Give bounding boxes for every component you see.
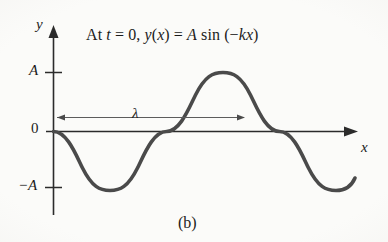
y-axis <box>49 25 59 215</box>
x-axis <box>46 127 358 137</box>
equation-sin-open: sin ( <box>197 26 230 43</box>
x-axis-arrowhead <box>344 127 358 137</box>
equation-paren-close-eq: ) = <box>164 26 187 43</box>
y-axis-label: y <box>36 17 43 32</box>
figure-container: y x A 0 −A λ At t = 0, y(x) = A sin (−kx… <box>0 0 388 242</box>
x-axis-label: x <box>361 140 368 155</box>
figure-caption: (b) <box>178 215 197 231</box>
wavelength-arrowhead-left <box>57 115 65 121</box>
y-tick-label-A: A <box>29 63 38 78</box>
y-tick-label-zero: 0 <box>31 121 39 136</box>
equation-function-y: y <box>144 26 151 43</box>
equation-amplitude-A: A <box>187 26 197 43</box>
equation-wavenumber-k: k <box>239 26 246 43</box>
equation-annotation: At t = 0, y(x) = A sin (−kx) <box>86 27 259 43</box>
equation-prefix: At <box>86 26 106 43</box>
y-tick-label-negative-A: −A <box>18 178 37 193</box>
y-axis-arrowhead <box>49 25 59 38</box>
equation-eq-zero: = 0, <box>111 26 145 43</box>
wavelength-arrowhead-right <box>237 115 245 121</box>
equation-paren-final: ) <box>253 26 258 43</box>
equation-minus-sign: − <box>230 26 239 43</box>
wavelength-arrow <box>57 115 245 121</box>
wavelength-label-lambda: λ <box>132 106 139 121</box>
